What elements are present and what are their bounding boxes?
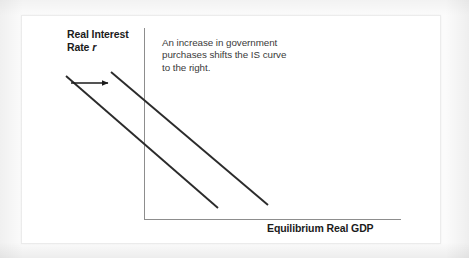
is-curve-shifted [111, 72, 268, 205]
is-curve-initial [66, 76, 218, 208]
curves-layer [22, 16, 440, 243]
figure-container: Real Interest Rate r Equilibrium Real GD… [0, 0, 469, 258]
figure-panel: Real Interest Rate r Equilibrium Real GD… [21, 15, 441, 244]
